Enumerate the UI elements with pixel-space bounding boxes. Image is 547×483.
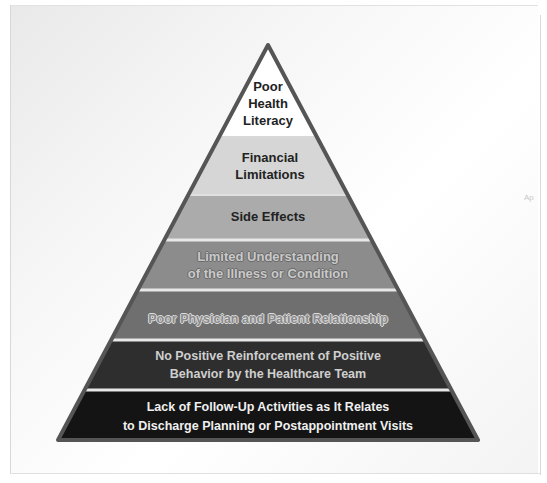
level-1-label: Poor Health Literacy — [243, 78, 293, 129]
level-5-label: Poor Physician and Patient Relationship — [148, 311, 388, 328]
level-6-label: No Positive Reinforcement of Positive Be… — [155, 347, 381, 383]
corner-mark: Ap — [524, 193, 534, 202]
label-line: Financial — [235, 149, 304, 166]
label-line: Poor Physician and Patient Relationship — [148, 311, 388, 328]
label-line: Behavior by the Healthcare Team — [155, 365, 381, 383]
label-line: to Discharge Planning or Postappointment… — [123, 417, 413, 436]
level-7-label: Lack of Follow-Up Activities as It Relat… — [123, 398, 413, 436]
label-line: Side Effects — [231, 208, 305, 225]
label-line: Health — [243, 95, 293, 112]
label-line: Limitations — [235, 166, 304, 183]
label-line: No Positive Reinforcement of Positive — [155, 347, 381, 365]
level-4-label: Limited Understanding of the Illness or … — [188, 248, 348, 282]
label-line: of the Illness or Condition — [188, 265, 348, 282]
label-line: Lack of Follow-Up Activities as It Relat… — [123, 398, 413, 417]
label-line: Limited Understanding — [188, 248, 348, 265]
label-line: Literacy — [243, 112, 293, 129]
level-2-label: Financial Limitations — [235, 149, 304, 183]
label-line: Poor — [243, 78, 293, 95]
level-3-label: Side Effects — [231, 208, 305, 225]
